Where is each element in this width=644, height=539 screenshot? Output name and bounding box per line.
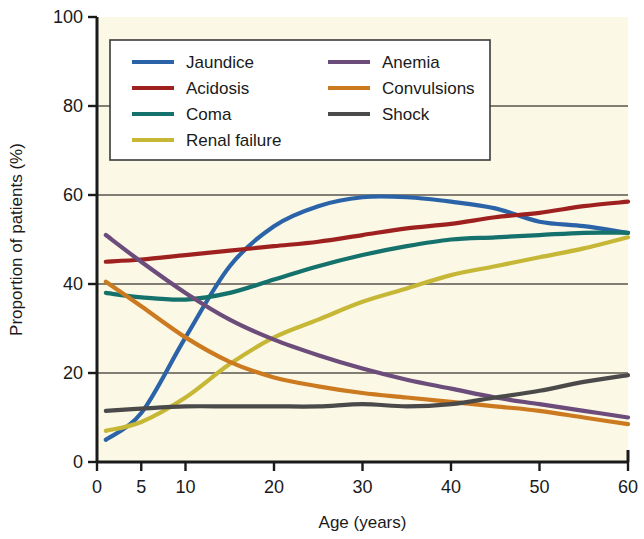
x-tick-label-60: 60 xyxy=(618,477,638,497)
x-tick-label-5: 5 xyxy=(136,477,146,497)
y-axis-title: Proportion of patients (%) xyxy=(7,143,26,336)
line-chart-figure: 02040608010005102030405060Age (years)Pro… xyxy=(0,0,644,539)
x-tick-label-0: 0 xyxy=(92,477,102,497)
x-tick-label-10: 10 xyxy=(175,477,195,497)
x-axis-ticks: 05102030405060 xyxy=(92,462,638,497)
x-tick-label-40: 40 xyxy=(441,477,461,497)
y-tick-label-20: 20 xyxy=(63,363,83,383)
y-tick-label-60: 60 xyxy=(63,185,83,205)
x-tick-label-20: 20 xyxy=(264,477,284,497)
x-axis-title: Age (years) xyxy=(319,513,407,532)
chart-canvas: 02040608010005102030405060Age (years)Pro… xyxy=(0,0,644,539)
legend-label-jaundice: Jaundice xyxy=(186,53,254,72)
legend-label-shock: Shock xyxy=(382,105,430,124)
legend: JaundiceAcidosisComaRenal failureAnemiaC… xyxy=(110,40,490,160)
y-tick-label-100: 100 xyxy=(53,7,83,27)
y-tick-label-80: 80 xyxy=(63,96,83,116)
y-tick-label-40: 40 xyxy=(63,274,83,294)
legend-label-coma: Coma xyxy=(186,105,232,124)
x-tick-label-50: 50 xyxy=(529,477,549,497)
x-tick-label-30: 30 xyxy=(352,477,372,497)
legend-label-convulsions: Convulsions xyxy=(382,79,475,98)
y-tick-label-0: 0 xyxy=(73,452,83,472)
y-axis-ticks: 020406080100 xyxy=(53,7,97,472)
legend-label-renal-failure: Renal failure xyxy=(186,131,281,150)
legend-label-acidosis: Acidosis xyxy=(186,79,249,98)
legend-label-anemia: Anemia xyxy=(382,53,440,72)
